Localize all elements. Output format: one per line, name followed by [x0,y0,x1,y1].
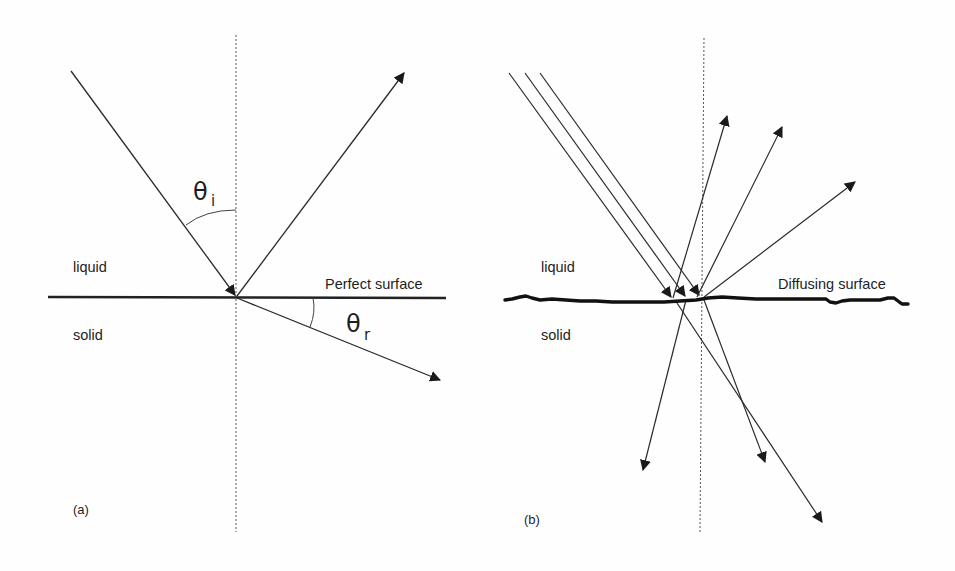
theta-i-subscript: i [211,192,215,210]
transmitted-ray-3 [675,300,822,522]
reflected-ray-b2 [697,127,782,297]
perfect-surface-line [48,297,446,298]
incident-ray-b1 [509,73,671,297]
panel-b: liquid solid Diffusing surface (b) [505,38,908,533]
liquid-label-b: liquid [541,259,575,275]
incident-angle-arc [186,210,236,225]
solid-label-b: solid [541,327,571,343]
diagram-canvas: θ i θ r liquid solid Perfect surface (a)… [0,0,955,571]
transmitted-ray-2 [704,300,765,462]
figure: θ i θ r liquid solid Perfect surface (a)… [0,0,955,571]
theta-i-label: θ [193,178,208,206]
caption-a: (a) [73,502,89,517]
diffusing-surface-label: Diffusing surface [778,276,886,292]
theta-r-label: θ [346,310,361,338]
caption-b: (b) [524,512,540,527]
refraction-angle-arc [310,298,314,327]
solid-label-a: solid [73,327,103,343]
reflected-ray-b1 [673,116,727,298]
diffusing-surface-line [505,296,908,304]
reflected-ray-a [237,73,404,296]
panel-a: θ i θ r liquid solid Perfect surface (a) [48,35,446,532]
transmitted-ray-1 [643,300,686,470]
refracted-ray-a [237,298,440,380]
perfect-surface-label: Perfect surface [325,276,423,292]
theta-r-subscript: r [364,326,371,344]
liquid-label-a: liquid [73,259,107,275]
